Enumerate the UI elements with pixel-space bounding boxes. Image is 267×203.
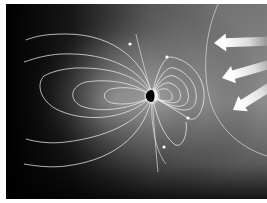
direction-marker <box>162 145 165 148</box>
direction-marker <box>165 55 168 58</box>
direction-marker <box>186 116 189 119</box>
earth <box>144 88 160 104</box>
magnetosphere-figure: Earth's magnetosphere in the solar wind <box>6 4 267 199</box>
magnetosphere-illustration <box>6 4 267 199</box>
direction-marker <box>128 42 131 45</box>
